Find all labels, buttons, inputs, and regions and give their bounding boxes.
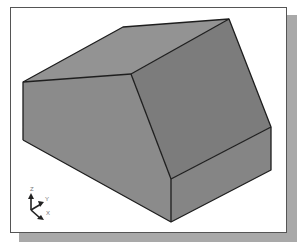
solid-model: Z Y X bbox=[0, 0, 300, 249]
y-axis-label: Y bbox=[45, 196, 49, 202]
axis-triad: Z Y X bbox=[28, 186, 50, 220]
x-axis-label: X bbox=[46, 210, 50, 216]
x-axis-icon bbox=[31, 210, 40, 218]
z-axis-label: Z bbox=[30, 186, 34, 192]
